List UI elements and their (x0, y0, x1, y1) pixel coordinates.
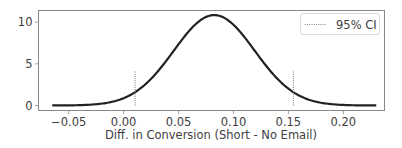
ci-lines (135, 71, 293, 106)
x-axis-label: Diff. in Conversion (Short - No Email) (105, 128, 317, 142)
y-tick-label: 10 (18, 15, 33, 29)
legend-label: 95% CI (336, 18, 377, 32)
x-tick-label: 0.10 (221, 115, 247, 129)
density-chart: −0.050.000.050.100.150.20 0510 Diff. in … (0, 0, 402, 148)
x-tick-label: 0.00 (111, 115, 137, 129)
x-tick-label: 0.05 (166, 115, 192, 129)
x-tick-label: 0.15 (276, 115, 302, 129)
y-tick-label: 5 (25, 57, 32, 71)
y-tick-label: 0 (25, 99, 32, 113)
legend: 95% CI (301, 14, 380, 35)
x-tick-label: 0.20 (331, 115, 357, 129)
x-axis-ticks: −0.050.000.050.100.150.20 (51, 111, 356, 129)
y-axis-ticks: 0510 (18, 15, 39, 112)
x-tick-label: −0.05 (51, 115, 86, 129)
